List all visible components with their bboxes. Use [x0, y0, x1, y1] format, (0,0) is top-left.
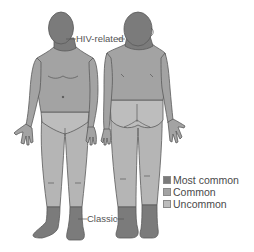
legend-swatch-most-common — [163, 176, 171, 184]
front-torso — [36, 47, 94, 112]
front-left-arm — [26, 58, 41, 127]
classic-label: Classic — [87, 214, 118, 224]
legend-item-uncommon: Uncommon — [163, 198, 239, 210]
legend-swatch-common — [163, 188, 171, 196]
legend-label: Most common — [173, 174, 239, 186]
back-torso — [107, 44, 166, 100]
legend-item-common: Common — [163, 186, 239, 198]
body-distribution-diagram: HIV-related Classic Most common Common U… — [0, 0, 254, 252]
front-right-foot — [67, 207, 85, 240]
back-right-hand — [168, 119, 185, 143]
body-figures — [0, 0, 254, 252]
legend-swatch-uncommon — [163, 200, 171, 208]
front-left-hand — [14, 124, 33, 145]
legend-item-most-common: Most common — [163, 174, 239, 186]
back-left-foot — [116, 207, 138, 238]
front-right-hand — [86, 127, 96, 145]
back-left-hand — [101, 129, 111, 145]
back-right-foot — [140, 205, 158, 238]
back-buttocks — [110, 100, 163, 128]
legend-label: Common — [173, 186, 216, 198]
front-figure — [14, 12, 98, 240]
legend: Most common Common Uncommon — [163, 174, 239, 210]
hiv-related-label: HIV-related — [76, 34, 124, 44]
legend-label: Uncommon — [173, 198, 227, 210]
front-left-foot — [33, 207, 60, 238]
back-head — [124, 12, 152, 46]
